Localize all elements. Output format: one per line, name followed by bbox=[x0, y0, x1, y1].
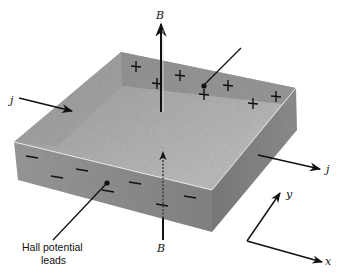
axis-y-arrow bbox=[247, 193, 280, 241]
hall-lead-back-contact bbox=[201, 83, 206, 88]
hall-leads-label-line1: Hall potential bbox=[22, 241, 83, 253]
hall-leads-label-line2: leads bbox=[41, 254, 66, 266]
current-in-label: j bbox=[7, 94, 14, 107]
axis-x-label: x bbox=[325, 255, 332, 268]
b-field-label-top: B bbox=[155, 9, 164, 22]
hall-lead-front-contact bbox=[104, 180, 109, 185]
coordinate-axes: y x bbox=[247, 188, 332, 268]
b-field-label-bottom: B bbox=[156, 242, 165, 255]
current-out-label: j bbox=[323, 163, 330, 176]
conductor-slab bbox=[14, 52, 297, 232]
axis-y-label: y bbox=[285, 188, 293, 201]
hall-effect-diagram: B B j j Hall potential leads y x bbox=[0, 0, 343, 275]
axis-x-arrow bbox=[247, 241, 322, 262]
